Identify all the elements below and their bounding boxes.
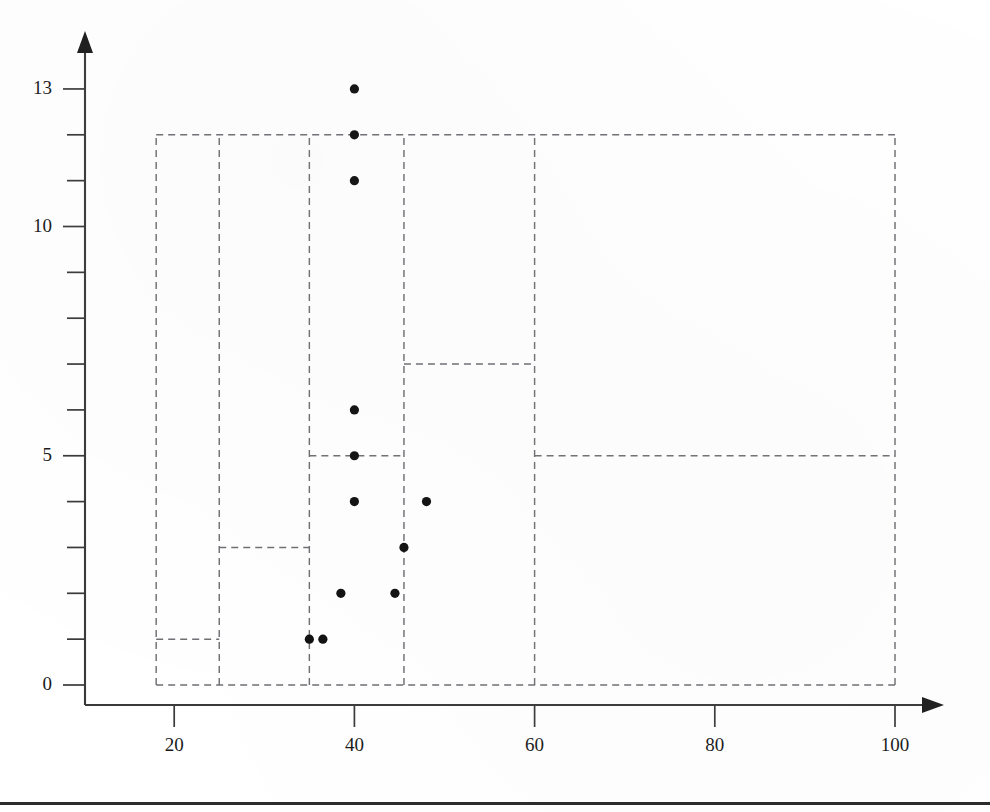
y-tick-label-0: 0 xyxy=(43,673,53,694)
scatter-plot-figure: 05101320406080100 xyxy=(0,0,990,812)
data-point xyxy=(390,589,399,598)
y-tick-label-5: 5 xyxy=(43,444,53,465)
tick-labels-layer: 05101320406080100 xyxy=(33,77,909,754)
data-point xyxy=(422,497,431,506)
y-tick-label-10: 10 xyxy=(33,215,52,236)
x-tick-label-80: 80 xyxy=(705,734,724,755)
data-points-layer xyxy=(305,84,431,643)
y-tick-label-13: 13 xyxy=(33,77,52,98)
x-tick-label-40: 40 xyxy=(345,734,364,755)
x-tick-label-60: 60 xyxy=(525,734,544,755)
data-point xyxy=(350,497,359,506)
data-point xyxy=(350,451,359,460)
tick-marks-layer xyxy=(63,89,895,727)
plot-canvas: 05101320406080100 xyxy=(0,0,990,812)
dashed-regions-layer xyxy=(156,135,895,685)
data-point xyxy=(336,589,345,598)
data-point xyxy=(305,635,314,644)
data-point xyxy=(318,635,327,644)
data-point xyxy=(350,405,359,414)
y-axis-arrowhead xyxy=(77,31,93,53)
data-point xyxy=(350,176,359,185)
x-axis-arrowhead xyxy=(922,697,944,713)
axes-layer xyxy=(77,31,944,713)
bottom-rule xyxy=(0,802,990,805)
data-point xyxy=(350,84,359,93)
x-tick-label-20: 20 xyxy=(165,734,184,755)
data-point xyxy=(350,130,359,139)
x-tick-label-100: 100 xyxy=(881,734,910,755)
data-point xyxy=(399,543,408,552)
